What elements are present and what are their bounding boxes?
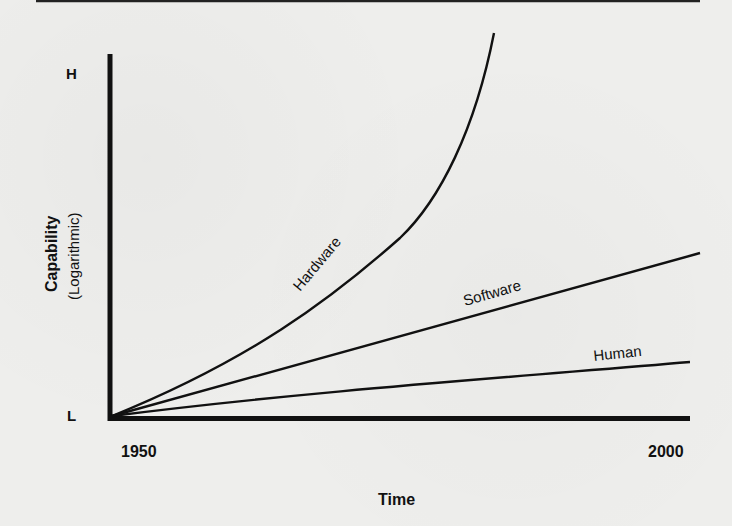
- x-axis-title: Time: [378, 491, 415, 508]
- y-axis-subtitle: (Logarithmic): [65, 212, 82, 300]
- capability-chart: H L 1950 2000 Time Capability (Logarithm…: [0, 0, 732, 526]
- software-line: [112, 253, 700, 416]
- hardware-curve: [112, 33, 494, 416]
- y-tick-low: L: [67, 407, 76, 424]
- human-label: Human: [593, 342, 643, 364]
- hardware-label: Hardware: [289, 233, 344, 294]
- x-tick-1950: 1950: [121, 443, 157, 460]
- y-tick-high: H: [66, 65, 77, 82]
- human-line: [112, 362, 690, 416]
- x-tick-2000: 2000: [648, 443, 684, 460]
- y-axis-title: Capability: [43, 215, 60, 292]
